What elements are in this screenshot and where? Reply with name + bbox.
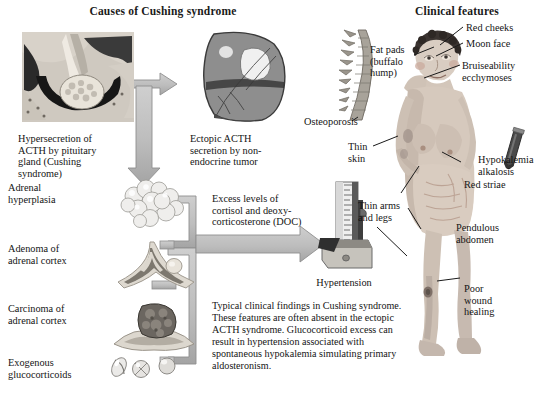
label-poor-wound-healing: Poor wound healing: [464, 283, 520, 318]
label-thin-arms-legs: Thin arms and legs: [358, 200, 422, 223]
label-osteoporosis: Osteoporosis: [304, 116, 374, 128]
label-ectopic-acth: Ectopic ACTH secretion by non- endocrine…: [190, 133, 302, 168]
label-adrenal-adenoma: Adenoma of adrenal cortex: [8, 243, 108, 266]
note-paragraph: Typical clinical findings in Cushing syn…: [212, 300, 402, 371]
label-bruiseability: Bruiseability ecchymoses: [462, 60, 544, 83]
illustration-canvas: Causes of Cushing syndrome Clinical feat…: [0, 0, 544, 400]
label-red-striae: Red striae: [464, 179, 540, 191]
label-adrenal-carcinoma: Carcinoma of adrenal cortex: [8, 303, 108, 326]
label-fat-pads: Fat pads (buffalo hump): [370, 44, 428, 79]
label-hypokalemia: Hypokalemia alkalosis: [478, 154, 544, 177]
label-thin-skin: Thin skin: [348, 141, 392, 164]
label-red-cheeks: Red cheeks: [466, 22, 540, 34]
label-adrenal-hyperplasia: Adrenal hyperplasia: [8, 182, 108, 205]
label-exogenous-glucocorticoids: Exogenous glucocorticoids: [8, 357, 108, 380]
label-moon-face: Moon face: [466, 38, 540, 50]
label-hypertension: Hypertension: [296, 277, 392, 289]
label-excess-cortisol: Excess levels of cortisol and deoxy- cor…: [212, 193, 328, 228]
label-pendulous-abdomen: Pendulous abdomen: [456, 222, 526, 245]
label-pituitary-hypersecretion: Hypersecretion of ACTH by pituitary glan…: [18, 133, 126, 179]
